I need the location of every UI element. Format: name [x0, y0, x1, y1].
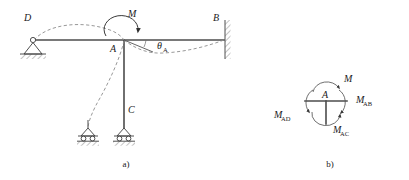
support-C-roller: [113, 128, 135, 146]
engineering-figure: D A B C M θ A a) A: [0, 0, 409, 180]
fbd-label-M-text: M: [343, 73, 353, 84]
fbd-label-M: M: [343, 73, 353, 84]
fbd-label-MAC: M AC: [332, 124, 349, 137]
figure-root: D A B C M θ A a) A: [0, 0, 409, 180]
caption-a: a): [123, 159, 130, 169]
fbd-center-label: A: [321, 89, 329, 100]
fbd-label-MAB-sub: AB: [363, 100, 373, 107]
caption-b: b): [326, 159, 334, 169]
support-B-fixed: [225, 20, 231, 59]
rotation-label-group: θ A: [157, 40, 168, 53]
support-auxiliary-roller: [77, 120, 99, 146]
fbd-label-MAB: M AB: [355, 94, 373, 107]
fbd-label-MAC-sub: AC: [340, 130, 349, 137]
rotation-label-theta: θ: [157, 40, 162, 51]
fbd-label-MAD-sub: AD: [281, 115, 291, 122]
joint-label-B: B: [213, 12, 219, 23]
rotation-label-subscript: A: [163, 46, 168, 53]
deflection-curve-DA: [34, 25, 124, 40]
angle-arc-thetaA: [144, 40, 146, 47]
rotated-tangent-line: [124, 40, 153, 52]
joint-label-A: A: [109, 43, 117, 54]
joint-fbd-diagram: A M M AB M AC M AD b): [273, 73, 373, 169]
applied-moment-label: M: [127, 8, 137, 19]
joint-label-C: C: [128, 104, 135, 115]
frame-diagram: D A B C M θ A a): [20, 8, 231, 169]
deflection-curve-AC: [88, 41, 124, 127]
fbd-label-MAD: M AD: [273, 109, 291, 122]
joint-label-D: D: [23, 12, 32, 23]
